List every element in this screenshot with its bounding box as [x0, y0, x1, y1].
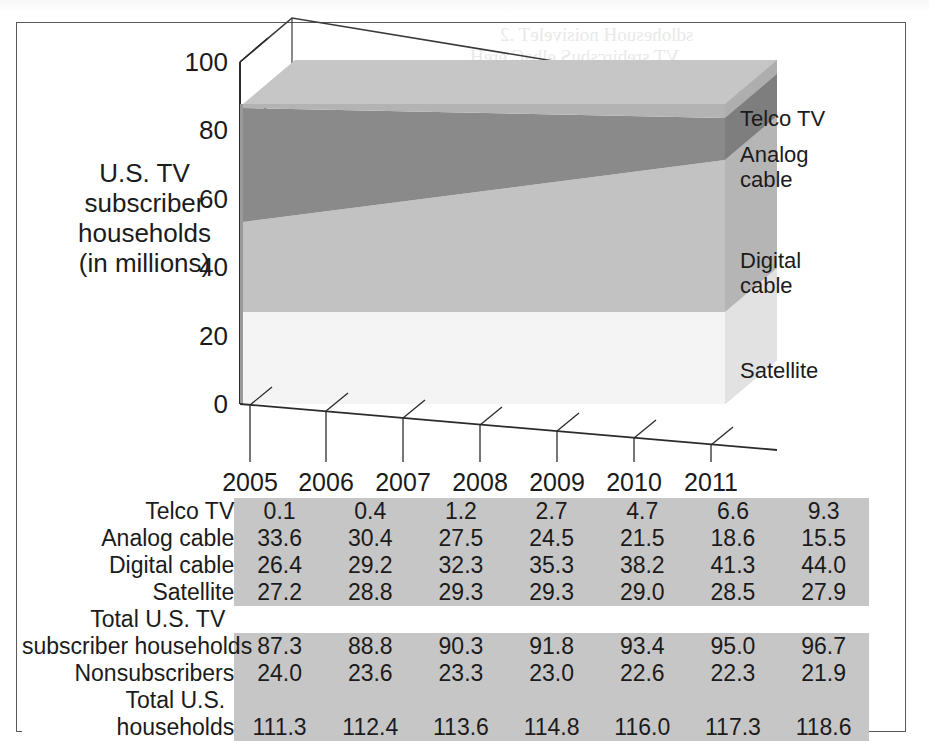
x-axis-year-label: 2007	[366, 468, 440, 497]
x-axis-year-label: 2011	[674, 468, 748, 497]
cell-blank	[416, 687, 507, 714]
cell: 23.0	[506, 660, 597, 687]
cell-blank	[688, 606, 779, 633]
series-label-line: Telco TV	[740, 106, 825, 131]
cell-blank	[688, 687, 779, 714]
x-depth-tick-2011	[711, 427, 733, 445]
cell: 112.4	[325, 714, 416, 741]
table-row: households 111.3 112.4 113.6 114.8 116.0…	[22, 714, 869, 741]
row-label: households	[22, 714, 234, 741]
cell: 28.5	[688, 579, 779, 606]
cell-blank	[325, 606, 416, 633]
cell: 0.1	[234, 498, 325, 525]
table-row: Analog cable 33.6 30.4 27.5 24.5 21.5 18…	[22, 525, 869, 552]
cell: 88.8	[325, 633, 416, 660]
table-row-wrap: Total U.S. TV	[22, 606, 869, 633]
y-axis-title-line: households	[62, 218, 227, 248]
row-label: Nonsubscribers	[22, 660, 234, 687]
row-label: Digital cable	[22, 552, 234, 579]
cell: 29.2	[325, 552, 416, 579]
cell: 117.3	[688, 714, 779, 741]
cell: 6.6	[688, 498, 779, 525]
series-label-analog-cable: Analog cable	[740, 142, 809, 192]
table-row: Nonsubscribers 24.0 23.6 23.3 23.0 22.6 …	[22, 660, 869, 687]
y-axis-title: U.S. TV subscriber households (in millio…	[62, 158, 227, 278]
cell: 23.6	[325, 660, 416, 687]
x-axis-year-label: 2005	[213, 468, 287, 497]
y-axis-tick-label: 20	[168, 321, 228, 352]
x-axis-year-label: 2010	[597, 468, 671, 497]
data-table: Telco TV 0.1 0.4 1.2 2.7 4.7 6.6 9.3 Ana…	[0, 498, 929, 741]
cell-blank	[234, 606, 325, 633]
y-axis-title-line: subscriber	[62, 188, 227, 218]
cell: 41.3	[688, 552, 779, 579]
series-label-telco-tv: Telco TV	[740, 106, 825, 131]
series-label-line: cable	[740, 167, 809, 192]
cell-blank	[506, 687, 597, 714]
series-label-satellite: Satellite	[740, 358, 818, 383]
cell: 21.9	[778, 660, 869, 687]
cell: 118.6	[778, 714, 869, 741]
x-axis-year-label: 2009	[520, 468, 594, 497]
cell: 21.5	[597, 525, 688, 552]
table-row: Satellite 27.2 28.8 29.3 29.3 29.0 28.5 …	[22, 579, 869, 606]
cell: 24.0	[234, 660, 325, 687]
cell: 9.3	[778, 498, 869, 525]
cell-blank	[778, 606, 869, 633]
cell-blank	[597, 687, 688, 714]
cell: 27.2	[234, 579, 325, 606]
y-axis-tick-label: 80	[168, 115, 228, 146]
table-row: Digital cable 26.4 29.2 32.3 35.3 38.2 4…	[22, 552, 869, 579]
row-label: subscriber households	[22, 633, 234, 660]
x-depth-tick-2009	[557, 413, 579, 431]
x-axis-year-label: 2008	[443, 468, 517, 497]
table-row: Telco TV 0.1 0.4 1.2 2.7 4.7 6.6 9.3	[22, 498, 869, 525]
cell: 23.3	[416, 660, 507, 687]
cell: 90.3	[416, 633, 507, 660]
slab-top-face	[243, 60, 777, 104]
cell: 26.4	[234, 552, 325, 579]
table-row-wrap: Total U.S.	[22, 687, 869, 714]
x-depth-tick-2008	[480, 407, 502, 425]
y-axis-title-line: U.S. TV	[62, 158, 227, 188]
row-label-wrap: Total U.S. TV	[22, 606, 234, 633]
cell-blank	[325, 687, 416, 714]
cell: 44.0	[778, 552, 869, 579]
x-depth-tick-2010	[634, 420, 656, 438]
cell: 35.3	[506, 552, 597, 579]
cell-blank	[234, 687, 325, 714]
cell: 113.6	[416, 714, 507, 741]
row-label-wrap: Total U.S.	[22, 687, 234, 714]
cell-blank	[597, 606, 688, 633]
series-label-line: Digital	[740, 248, 801, 273]
cell: 28.8	[325, 579, 416, 606]
series-label-line: Satellite	[740, 358, 818, 383]
series-label-line: cable	[740, 273, 801, 298]
cell: 18.6	[688, 525, 779, 552]
cell: 30.4	[325, 525, 416, 552]
cell: 0.4	[325, 498, 416, 525]
cell: 27.5	[416, 525, 507, 552]
cell: 91.8	[506, 633, 597, 660]
cell: 114.8	[506, 714, 597, 741]
cell: 29.0	[597, 579, 688, 606]
y-tick-100	[240, 38, 268, 62]
cell: 32.3	[416, 552, 507, 579]
y-axis-tick-label: 100	[168, 47, 228, 78]
area-satellite	[243, 312, 725, 404]
series-label-digital-cable: Digital cable	[740, 248, 801, 298]
cell: 15.5	[778, 525, 869, 552]
row-label: Satellite	[22, 579, 234, 606]
cell: 33.6	[234, 525, 325, 552]
cell: 4.7	[597, 498, 688, 525]
cell: 38.2	[597, 552, 688, 579]
x-axis-year-label: 2006	[289, 468, 363, 497]
row-label: Telco TV	[22, 498, 234, 525]
x-axis-line	[240, 404, 777, 450]
cell-blank	[416, 606, 507, 633]
cell: 22.6	[597, 660, 688, 687]
slab-left-cap	[240, 104, 243, 404]
table-row: subscriber households 87.3 88.8 90.3 91.…	[22, 633, 869, 660]
cell: 24.5	[506, 525, 597, 552]
y-axis-title-line: (in millions)	[62, 248, 227, 278]
